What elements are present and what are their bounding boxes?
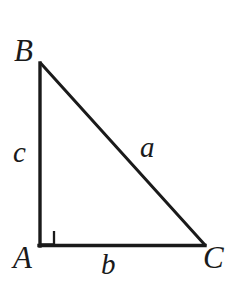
side-label-c: c: [13, 138, 26, 167]
vertex-label-b: B: [14, 35, 33, 66]
vertex-label-a: A: [13, 242, 32, 273]
side-label-b: b: [101, 250, 116, 279]
triangle-drawing: [0, 0, 237, 288]
right-triangle-figure: B A C c a b: [0, 0, 237, 288]
side-label-a: a: [140, 133, 155, 162]
right-angle-marker-icon: [41, 231, 54, 245]
side-a-line: [41, 63, 206, 245]
vertex-label-c: C: [203, 242, 224, 273]
